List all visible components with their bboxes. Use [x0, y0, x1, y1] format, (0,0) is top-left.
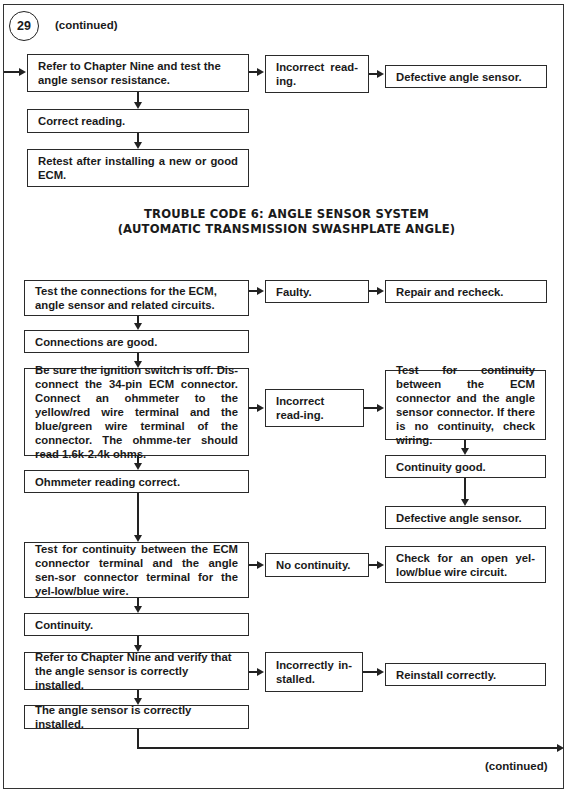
step-test-resistance: Refer to Chapter Nine and test the angle… — [27, 54, 249, 92]
result-incorrect-reading-2: Incorrect read-ing. — [265, 389, 364, 427]
step-text: Continuity. — [35, 618, 238, 632]
step-text: The angle sensor is correctly installed. — [35, 703, 238, 731]
arrow-right-icon — [377, 668, 384, 676]
connector-line — [137, 747, 558, 749]
connector-line — [4, 71, 20, 73]
continued-footer: (continued) — [485, 760, 548, 772]
step-text: Refer to Chapter Nine and verify that th… — [35, 650, 238, 692]
result-faulty: Faulty. — [265, 280, 369, 303]
arrow-right-icon — [257, 68, 264, 76]
arrow-down-icon — [461, 499, 469, 506]
result-incorrectly-installed: Incorrectly in-stalled. — [265, 652, 363, 692]
step-text: Incorrectly in-stalled. — [276, 658, 352, 686]
result-correctly-installed: The angle sensor is correctly installed. — [24, 705, 249, 729]
step-text: Be sure the ignition switch is off. Dis-… — [35, 363, 238, 461]
step-text: Continuity good. — [396, 460, 535, 474]
arrow-right-icon — [19, 68, 26, 76]
result-defective-sensor: Defective angle sensor. — [385, 65, 547, 88]
arrow-right-icon — [377, 404, 384, 412]
result-no-continuity: No continuity. — [265, 553, 369, 577]
step-text: Repair and recheck. — [396, 285, 536, 299]
connector-line — [363, 671, 378, 673]
section-title-line1: TROUBLE CODE 6: ANGLE SENSOR SYSTEM — [0, 207, 573, 222]
step-text: Check for an open yel-low/blue wire circ… — [396, 551, 535, 579]
arrow-down-icon — [461, 448, 469, 455]
step-text: Retest after installing a new or good EC… — [38, 154, 238, 182]
arrow-down-icon — [134, 606, 142, 613]
result-incorrect-reading: Incorrect read-ing. — [265, 55, 369, 93]
step-ohmmeter-test: Be sure the ignition switch is off. Dis-… — [24, 368, 249, 456]
arrow-right-icon — [557, 744, 564, 752]
arrow-down-icon — [134, 535, 142, 542]
step-text: Defective angle sensor. — [396, 70, 536, 84]
result-defective-sensor-2: Defective angle sensor. — [385, 506, 546, 529]
connector-line — [364, 407, 378, 409]
connector-line — [137, 493, 139, 536]
step-text: No continuity. — [276, 558, 358, 572]
section-title-line2: (AUTOMATIC TRANSMISSION SWASHPLATE ANGLE… — [0, 222, 573, 237]
arrow-down-icon — [134, 323, 142, 330]
arrow-right-icon — [257, 404, 264, 412]
arrow-down-icon — [134, 102, 142, 109]
figure-number-badge: 29 — [9, 11, 39, 41]
arrow-right-icon — [377, 287, 384, 295]
step-text: Correct reading. — [38, 114, 238, 128]
result-ohmmeter-correct: Ohmmeter reading correct. — [24, 470, 249, 493]
arrow-right-icon — [377, 70, 384, 78]
step-test-connections: Test the connections for the ECM, angle … — [24, 280, 249, 316]
step-continuity-wiring: Test for continuity between the ECM conn… — [385, 370, 546, 440]
step-text: Test for continuity between the ECM conn… — [35, 542, 238, 598]
arrow-down-icon — [134, 142, 142, 149]
step-text: Ohmmeter reading correct. — [35, 475, 238, 489]
arrow-right-icon — [257, 287, 264, 295]
step-text: Defective angle sensor. — [396, 511, 535, 525]
action-reinstall: Reinstall correctly. — [385, 663, 546, 686]
step-text: Incorrect read-ing. — [276, 60, 358, 88]
connector-line — [464, 478, 466, 500]
step-continuity-wire: Test for continuity between the ECM conn… — [24, 542, 249, 598]
connector-line — [137, 729, 139, 748]
arrow-down-icon — [134, 463, 142, 470]
step-text: Reinstall correctly. — [396, 668, 535, 682]
step-verify-install: Refer to Chapter Nine and verify that th… — [24, 652, 249, 690]
step-text: Faulty. — [276, 285, 358, 299]
figure-number: 29 — [17, 19, 31, 33]
arrow-right-icon — [377, 561, 384, 569]
step-text: Refer to Chapter Nine and test the angle… — [38, 59, 238, 87]
result-continuity: Continuity. — [24, 613, 249, 636]
step-text: Connections are good. — [35, 335, 238, 349]
result-correct-reading: Correct reading. — [27, 109, 249, 133]
result-connections-good: Connections are good. — [24, 330, 249, 353]
arrow-right-icon — [257, 561, 264, 569]
step-text: Test the connections for the ECM, angle … — [35, 284, 238, 312]
action-repair: Repair and recheck. — [385, 280, 547, 303]
step-retest: Retest after installing a new or good EC… — [27, 149, 249, 187]
arrow-right-icon — [257, 668, 264, 676]
step-text: Incorrect read-ing. — [276, 394, 353, 422]
continued-header: (continued) — [55, 19, 118, 31]
result-continuity-good: Continuity good. — [385, 455, 546, 478]
action-check-open-circuit: Check for an open yel-low/blue wire circ… — [385, 546, 546, 583]
step-text: Test for continuity between the ECM conn… — [396, 363, 535, 447]
